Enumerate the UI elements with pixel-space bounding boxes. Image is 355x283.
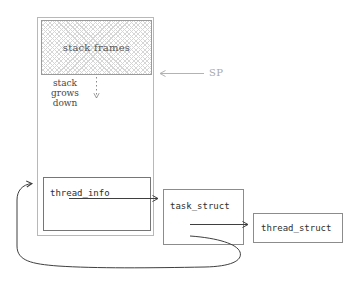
task-struct-to-thread-info-loop-arrow xyxy=(17,184,240,268)
kernel-stack-diagram: stack frames stack grows down SP thread_… xyxy=(0,0,355,283)
diagram-arrows xyxy=(0,0,355,283)
